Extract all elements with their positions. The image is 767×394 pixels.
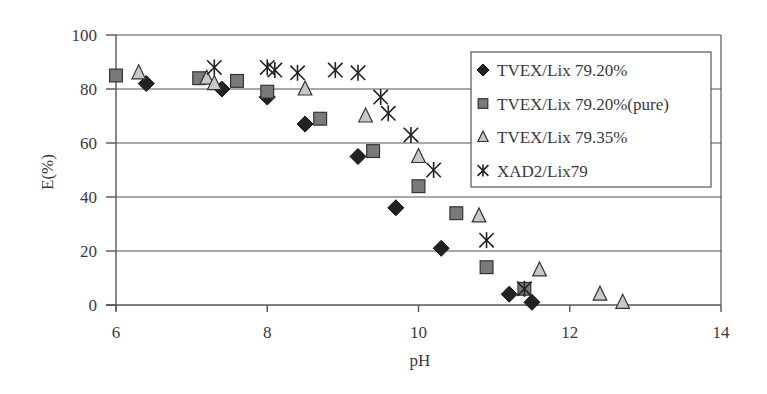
asterisk-marker-icon [404,127,418,143]
y-tick-label: 100 [72,26,98,45]
y-tick-label: 60 [80,134,97,153]
diamond-marker-icon [433,240,449,256]
diamond-marker-icon [350,149,366,165]
legend-label: TVEX/Lix 79.20%(pure) [497,95,669,114]
y-axis-title: E(%) [38,154,57,190]
legend-label: TVEX/Lix 79.35% [497,128,627,147]
triangle-marker-icon [616,294,630,308]
square-marker-icon [450,207,463,220]
asterisk-marker-icon [351,65,365,81]
triangle-marker-icon [132,65,146,79]
triangle-marker-icon [359,108,373,122]
asterisk-marker-icon [381,105,395,121]
asterisk-marker-icon [290,65,304,81]
legend-label: XAD2/Lix79 [497,162,588,181]
scatter-chart: 020406080100 68101214 pH E(%) TVEX/Lix 7… [0,0,767,394]
x-tick-label: 10 [410,323,427,342]
square-marker-icon [261,85,274,98]
triangle-marker-icon [593,286,607,300]
asterisk-marker-icon [479,232,493,248]
triangle-marker-icon [533,262,547,276]
asterisk-marker-icon [328,62,342,78]
triangle-marker-icon [412,149,426,163]
x-axis-title: pH [410,351,431,370]
square-marker-icon [231,75,244,88]
x-axis-tick-labels: 68101214 [112,323,730,342]
series-2 [110,69,531,295]
x-tick-label: 14 [713,323,731,342]
diamond-marker-icon [524,294,540,310]
square-marker-icon [478,99,488,109]
square-marker-icon [367,145,380,158]
square-marker-icon [480,261,493,274]
triangle-marker-icon [472,208,486,222]
asterisk-marker-icon [207,59,221,75]
x-tick-label: 6 [112,323,121,342]
y-tick-label: 80 [80,80,97,99]
x-tick-label: 8 [263,323,272,342]
square-marker-icon [314,112,327,125]
diamond-marker-icon [388,200,404,216]
asterisk-marker-icon [373,89,387,105]
diamond-marker-icon [501,286,517,302]
legend: TVEX/Lix 79.20%TVEX/Lix 79.20%(pure)TVEX… [471,52,711,187]
legend-label: TVEX/Lix 79.20% [497,61,627,80]
asterisk-marker-icon [426,162,440,178]
diamond-marker-icon [297,116,313,132]
x-tick-label: 12 [561,323,578,342]
square-marker-icon [412,180,425,193]
y-tick-label: 0 [89,296,98,315]
y-axis-tick-labels: 020406080100 [72,26,98,315]
y-tick-label: 40 [80,188,97,207]
square-marker-icon [110,69,123,82]
triangle-marker-icon [298,81,312,95]
y-tick-label: 20 [80,242,97,261]
